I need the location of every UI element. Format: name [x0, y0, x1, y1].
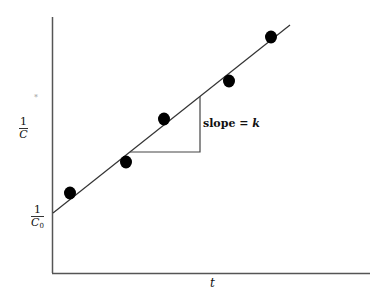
data-point — [223, 75, 235, 88]
y-axis-label-numerator: 1 — [19, 117, 28, 127]
intercept-subscript: 0 — [39, 222, 43, 230]
intercept-label: 1 C0 — [31, 205, 44, 231]
data-points — [64, 31, 277, 200]
data-point — [265, 31, 277, 44]
y-axis-label-denominator: C — [19, 130, 27, 140]
slope-annotation: slope = k — [203, 117, 260, 130]
y-axis-label: 1 C — [19, 117, 28, 140]
intercept-label-denominator: C0 — [31, 218, 44, 231]
slope-text: slope = — [203, 117, 252, 130]
chart-canvas — [0, 0, 386, 304]
slope-variable: k — [252, 117, 260, 130]
stray-mark: * — [34, 93, 38, 102]
intercept-label-numerator: 1 — [33, 205, 42, 215]
data-point — [158, 113, 170, 126]
data-point — [120, 156, 132, 169]
x-axis-label: t — [210, 276, 215, 290]
data-point — [64, 187, 76, 200]
